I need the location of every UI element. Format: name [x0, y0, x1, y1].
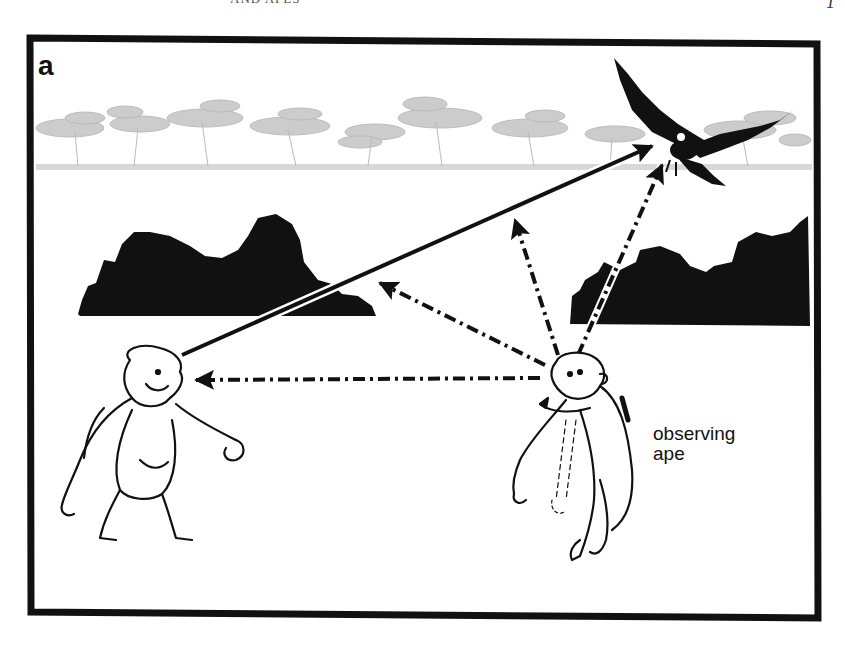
observing-ape-label-line1: observing [653, 424, 735, 444]
observing-ape-label: observing ape [653, 424, 735, 464]
observing-ape-label-line2: ape [653, 444, 735, 464]
figure-panel-a [0, 0, 845, 651]
panel-label: a [38, 52, 54, 80]
